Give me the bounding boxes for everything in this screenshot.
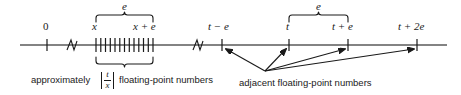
- brace-path: [96, 57, 153, 67]
- absolute-value-fraction: t x: [101, 70, 114, 90]
- fraction-numerator: t: [105, 70, 110, 79]
- axis-label-t: t: [286, 21, 289, 32]
- lower-brace-left: [96, 57, 153, 67]
- axis-label-t-plus-2e: t + 2e: [398, 21, 424, 32]
- axis-label-t-plus-e: t + e: [332, 21, 353, 32]
- arrow-to-t-plus-e: [265, 49, 345, 71]
- arrow-to-t-minus-e: [226, 49, 265, 71]
- left-caption-suffix: floating-point numbers: [119, 75, 213, 85]
- caption-pointer-arrows: [226, 49, 414, 71]
- axis-label-x-plus-e: x + e: [133, 21, 156, 32]
- brace-label-e-right: e: [316, 1, 321, 12]
- fraction-denominator: x: [105, 81, 111, 90]
- axis-break-icon-1: [67, 40, 77, 50]
- right-caption: adjacent floating-point numbers: [239, 78, 372, 88]
- left-caption-prefix: approximately: [31, 75, 90, 85]
- arrow-to-t-plus-2e: [265, 49, 414, 71]
- axis-break-icon-2: [193, 40, 203, 50]
- floating-point-number-line-figure: 0 x x + e t − e t t + e t + 2e e e appro…: [0, 0, 461, 95]
- abs-bar-right: [113, 72, 114, 89]
- axis-label-t-minus-e: t − e: [208, 21, 229, 32]
- axis-label-zero: 0: [43, 21, 49, 32]
- brace-label-e-left: e: [122, 1, 127, 12]
- axis-label-x: x: [92, 21, 97, 32]
- fraction-stack: t x: [102, 70, 113, 90]
